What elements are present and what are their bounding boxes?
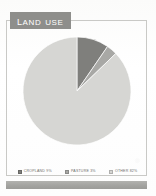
legend-swatch-cropland: [18, 170, 22, 174]
pie-slice-group: [22, 37, 130, 145]
legend-item-cropland: Cropland 9%: [18, 169, 52, 174]
pie-chart-svg: [22, 36, 132, 146]
page-title: Land Use: [17, 15, 63, 27]
legend-label-pasture: Pasture 3%: [71, 169, 96, 174]
legend-item-pasture: Pasture 3%: [65, 169, 96, 174]
legend-label-cropland: Cropland 9%: [24, 169, 52, 174]
pie-chart: [22, 36, 132, 146]
legend-swatch-other: [109, 170, 113, 174]
legend-swatch-pasture: [65, 170, 69, 174]
land-use-infographic-panel: Land Use Cropland 9% Pasture 3% Other 82…: [0, 0, 156, 196]
chart-area: [7, 34, 146, 164]
title-banner: Land Use: [10, 12, 71, 29]
legend-item-other: Other 82%: [109, 169, 137, 174]
legend-label-other: Other 82%: [115, 169, 137, 174]
chart-legend: Cropland 9% Pasture 3% Other 82%: [7, 166, 148, 177]
footer-bar: [6, 181, 147, 189]
